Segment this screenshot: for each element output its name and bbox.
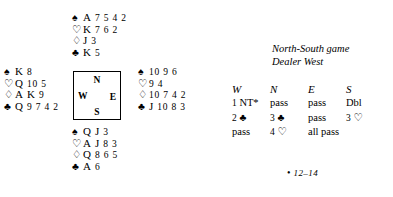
west-spades-line: ♠ K 8 — [4, 66, 59, 78]
club-icon: ♣ — [72, 161, 83, 173]
hand-south: ♠ Q J 3 ♡ A J 8 3 ♢ Q 8 6 5 ♣ A 6 — [72, 126, 118, 172]
auction-header-south: S — [346, 83, 384, 97]
bridge-deal-diagram: ♠ A 7 5 4 2 ♡ K 7 6 2 ♢ J 3 ♣ K 5 ♠ K 8 … — [0, 0, 228, 197]
bid-n-3: 4 ♡ — [270, 125, 308, 139]
auction-row: 1 NT* pass pass Dbl — [232, 97, 384, 111]
east-hearts-line: ♡ 9 4 — [138, 78, 186, 90]
auction-table: W N E S 1 NT* pass pass Dbl 2 ♣ 3 ♣ pass… — [232, 83, 384, 139]
footnote-marker-icon: • — [287, 167, 291, 178]
bid-w-2: 2 ♣ — [232, 111, 270, 125]
bid-e-2: pass — [308, 111, 346, 125]
south-hearts-line: ♡ A J 8 3 — [72, 138, 118, 150]
club-icon: ♣ — [72, 47, 83, 59]
club-icon: ♣ — [138, 101, 149, 113]
east-spades-line: ♠ 10 9 6 — [138, 66, 186, 78]
spade-icon: ♠ — [4, 66, 15, 78]
heart-icon: ♡ — [138, 78, 149, 90]
spade-icon: ♠ — [138, 66, 149, 78]
footnote-text: 12–14 — [294, 168, 319, 178]
west-clubs: Q 9 7 4 2 — [15, 101, 59, 114]
auction-header-west: W — [232, 83, 270, 97]
auction-header-row: W N E S — [232, 83, 384, 97]
bid-w-1: 1 NT* — [232, 97, 270, 111]
spade-icon: ♠ — [72, 12, 83, 24]
west-clubs-line: ♣ Q 9 7 4 2 — [4, 101, 59, 113]
west-diamonds-line: ♢ A K 9 — [4, 89, 59, 101]
north-clubs-line: ♣ K 5 — [72, 47, 127, 59]
dealer-text: Dealer West — [272, 55, 349, 68]
hand-north: ♠ A 7 5 4 2 ♡ K 7 6 2 ♢ J 3 ♣ K 5 — [72, 12, 127, 58]
hand-east: ♠ 10 9 6 ♡ 9 4 ♢ 10 7 4 2 ♣ J 10 8 3 — [138, 66, 186, 112]
auction-row: 2 ♣ 3 ♣ pass 3 ♡ — [232, 111, 384, 125]
vulnerability-text: North-South game — [272, 42, 349, 55]
bid-n-1: pass — [270, 97, 308, 111]
bid-w-3: pass — [232, 125, 270, 139]
east-diamonds-line: ♢ 10 7 4 2 — [138, 89, 186, 101]
heart-icon: ♡ — [72, 138, 83, 150]
south-diamonds-line: ♢ Q 8 6 5 — [72, 149, 118, 161]
bid-e-1: pass — [308, 97, 346, 111]
south-clubs: A 6 — [83, 161, 100, 174]
club-icon: ♣ — [4, 101, 15, 113]
east-clubs: J 10 8 3 — [149, 101, 186, 114]
compass-box: N W E S — [73, 71, 121, 120]
east-clubs-line: ♣ J 10 8 3 — [138, 101, 186, 113]
diamond-icon: ♢ — [72, 149, 83, 161]
north-clubs: K 5 — [83, 47, 100, 60]
diamond-icon: ♢ — [138, 89, 149, 101]
bid-n-2: 3 ♣ — [270, 111, 308, 125]
diamond-icon: ♢ — [72, 35, 83, 47]
compass-east-label: E — [110, 92, 116, 102]
north-hearts-line: ♡ K 7 6 2 — [72, 24, 127, 36]
auction-header-east: E — [308, 83, 346, 97]
bid-s-1: Dbl — [346, 97, 384, 111]
auction-header-north: N — [270, 83, 308, 97]
south-clubs-line: ♣ A 6 — [72, 161, 118, 173]
compass-west-label: W — [78, 90, 88, 100]
bid-e-3: all pass — [308, 125, 384, 139]
bid-s-2: 3 ♡ — [346, 111, 384, 125]
spade-icon: ♠ — [72, 126, 83, 138]
deal-conditions: North-South game Dealer West — [272, 42, 349, 68]
north-spades-line: ♠ A 7 5 4 2 — [72, 12, 127, 24]
compass-south-label: S — [94, 107, 99, 117]
hand-west: ♠ K 8 ♡ Q 10 5 ♢ A K 9 ♣ Q 9 7 4 2 — [4, 66, 59, 112]
heart-icon: ♡ — [72, 24, 83, 36]
auction-grid: W N E S 1 NT* pass pass Dbl 2 ♣ 3 ♣ pass… — [232, 83, 384, 139]
heart-icon: ♡ — [4, 78, 15, 90]
compass-north-label: N — [94, 75, 101, 85]
footnote: • 12–14 — [287, 167, 318, 178]
diamond-icon: ♢ — [4, 89, 15, 101]
auction-row: pass 4 ♡ all pass — [232, 125, 384, 139]
north-diamonds-line: ♢ J 3 — [72, 35, 127, 47]
